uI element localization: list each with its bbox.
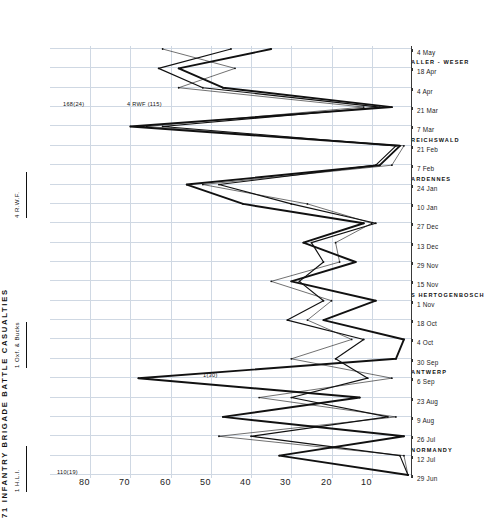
date-axis-tick-label: 29 Jun (417, 475, 437, 482)
value-axis-tick-label: 30 (280, 477, 291, 487)
data-point (303, 242, 305, 244)
battle-annotation: S HERTOGENBOSCH (411, 292, 485, 298)
tick-mark (412, 107, 413, 110)
date-axis-tick-label: 24 Jan (417, 185, 437, 192)
data-point (323, 261, 325, 263)
peak-callout: 110(19) (57, 469, 78, 475)
value-axis-tick-label: 20 (321, 477, 332, 487)
battle-annotation: REICHSWALD (411, 137, 460, 143)
date-axis-tick-label: 15 Nov (417, 281, 438, 288)
data-point (270, 48, 272, 50)
data-point (218, 184, 220, 186)
series-line (130, 49, 408, 475)
data-point (355, 261, 357, 263)
date-axis-tick-label: 27 Dec (417, 223, 438, 230)
data-point (130, 126, 132, 128)
data-point (270, 280, 272, 282)
data-point (403, 145, 405, 147)
data-point (146, 126, 148, 128)
data-point (363, 106, 365, 108)
x-axis-line (411, 46, 412, 478)
data-point (178, 87, 180, 89)
data-point (403, 455, 405, 457)
date-axis-tick-label: 4 Oct (417, 339, 433, 346)
tick-mark (412, 320, 413, 323)
value-axis-tick-label: 10 (361, 477, 372, 487)
tick-mark (412, 146, 413, 149)
date-axis-tick-label: 13 Dec (417, 243, 438, 250)
data-point (218, 435, 220, 437)
data-point (351, 339, 353, 341)
date-axis-tick-label: 18 Oct (417, 320, 437, 327)
legend-item-swatch (26, 322, 27, 368)
data-point (391, 164, 393, 166)
data-point (379, 106, 381, 108)
date-axis-tick-label: 1 Nov (417, 301, 435, 308)
legend-item-swatch (26, 172, 27, 218)
data-point (367, 377, 369, 379)
data-point (307, 319, 309, 321)
data-point (290, 358, 292, 360)
value-axis-tick-label: 70 (119, 477, 130, 487)
data-point (186, 184, 188, 186)
battle-annotation: ANTWERP (411, 369, 447, 375)
data-point (286, 319, 288, 321)
peak-callout: 168(24) (63, 101, 84, 107)
date-axis-tick-label: 30 Sep (417, 359, 438, 366)
data-point (290, 280, 292, 282)
data-point (290, 203, 292, 205)
data-point (298, 280, 300, 282)
data-point (242, 203, 244, 205)
data-point (311, 242, 313, 244)
battle-annotation: NORMANDY (411, 447, 453, 453)
data-point (363, 339, 365, 341)
data-point (375, 164, 377, 166)
legend-item-swatch (26, 446, 27, 492)
tick-mark (412, 126, 413, 129)
data-point (323, 319, 325, 321)
data-point (258, 397, 260, 399)
tick-mark (412, 398, 413, 401)
data-point (138, 377, 140, 379)
data-point (395, 358, 397, 360)
tick-mark (412, 204, 413, 207)
date-axis-tick-label: 7 Mar (417, 126, 434, 133)
data-point (230, 48, 232, 50)
tick-mark (412, 68, 413, 71)
tick-mark (412, 436, 413, 439)
data-point (399, 455, 401, 457)
peak-callout: 1(30) (203, 372, 218, 378)
data-point (379, 164, 381, 166)
tick-mark (412, 339, 413, 342)
value-axis-tick-label: 50 (200, 477, 211, 487)
tick-mark (412, 359, 413, 362)
legend-item-label: 1 Oxf. & Bucks (14, 322, 20, 368)
data-point (234, 67, 236, 69)
data-point (162, 126, 164, 128)
data-point (407, 474, 409, 476)
tick-mark (412, 49, 413, 52)
data-point (178, 67, 180, 69)
data-point (331, 300, 333, 302)
tick-mark (412, 281, 413, 284)
chart-title: 71 INFANTRY BRIGADE BATTLE CASUALTIES (0, 288, 9, 518)
data-point (162, 48, 164, 50)
plot-area: 1020304050607080 29 Jun12 Jul26 Jul9 Aug… (50, 46, 412, 478)
date-axis-tick-label: 21 Mar (417, 107, 438, 114)
legend-item-label: 4 R.W.F. (14, 192, 20, 218)
peak-callout: 4 RWF (115) (127, 101, 162, 107)
data-point (363, 222, 365, 224)
data-point (375, 222, 377, 224)
battle-annotation: ALLER - WESER (411, 59, 469, 65)
date-axis-tick-label: 26 Jul (417, 436, 435, 443)
data-point (395, 416, 397, 418)
date-axis-tick-label: 23 Aug (417, 398, 438, 405)
data-point (307, 203, 309, 205)
series-layer (50, 46, 412, 478)
date-axis-tick-label: 4 Apr (417, 88, 433, 95)
data-point (387, 416, 389, 418)
data-point (222, 87, 224, 89)
series-line (159, 49, 408, 475)
date-axis-tick-label: 10 Jan (417, 204, 437, 211)
data-point (403, 435, 405, 437)
